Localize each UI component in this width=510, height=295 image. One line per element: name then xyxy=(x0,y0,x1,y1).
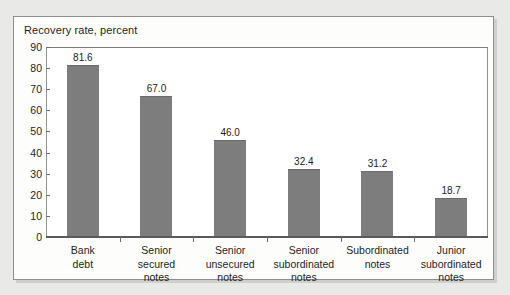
y-axis-tick-label: 0 xyxy=(18,231,42,243)
bar-column: 31.2 xyxy=(341,47,415,237)
x-axis-tick-mark xyxy=(267,237,268,242)
bar xyxy=(361,171,393,237)
y-axis-tick-mark xyxy=(46,195,50,196)
bar xyxy=(140,96,172,237)
chart-panel: Recovery rate, percent 90807060504030201… xyxy=(13,16,494,280)
x-axis-category-label-line: subordinated xyxy=(401,258,501,272)
y-axis: 9080706050403020100 xyxy=(14,47,42,237)
bar xyxy=(288,169,320,237)
y-axis-tick-mark xyxy=(46,216,50,217)
bar-value-label: 46.0 xyxy=(220,127,239,138)
bar xyxy=(435,198,467,237)
x-axis-tick-mark xyxy=(414,237,415,242)
y-axis-tick-mark xyxy=(46,153,50,154)
y-axis-tick-label: 50 xyxy=(18,125,42,137)
y-axis-tick-label: 20 xyxy=(18,189,42,201)
bar xyxy=(67,65,99,237)
bar-column: 32.4 xyxy=(267,47,341,237)
chart-page: Recovery rate, percent 90807060504030201… xyxy=(0,0,510,295)
y-axis-tick-label: 10 xyxy=(18,210,42,222)
bar-column: 67.0 xyxy=(120,47,194,237)
x-axis-tick-mark xyxy=(341,237,342,242)
bar xyxy=(214,140,246,237)
y-axis-tick-mark xyxy=(46,68,50,69)
y-axis-tick-mark xyxy=(46,131,50,132)
y-axis-tick-label: 70 xyxy=(18,83,42,95)
x-axis-category-label-line: notes xyxy=(254,271,354,285)
bar-value-label: 81.6 xyxy=(73,52,92,63)
y-axis-tick-mark xyxy=(46,110,50,111)
y-axis-tick-mark xyxy=(46,174,50,175)
bar-value-label: 18.7 xyxy=(441,185,460,196)
bar-value-label: 67.0 xyxy=(147,83,166,94)
x-axis-tick-mark xyxy=(120,237,121,242)
y-axis-tick-label: 80 xyxy=(18,62,42,74)
y-axis-tick-mark xyxy=(46,89,50,90)
y-axis-tick-label: 30 xyxy=(18,168,42,180)
bar-column: 18.7 xyxy=(414,47,488,237)
chart-title: Recovery rate, percent xyxy=(24,24,137,36)
bar-column: 46.0 xyxy=(193,47,267,237)
x-axis-tick-mark xyxy=(193,237,194,242)
y-axis-tick-label: 60 xyxy=(18,104,42,116)
x-axis-category-label-line: Junior xyxy=(401,244,501,258)
y-axis-tick-label: 40 xyxy=(18,147,42,159)
bar-value-label: 32.4 xyxy=(294,156,313,167)
x-axis-category-label-line: notes xyxy=(401,271,501,285)
bars-layer: 81.667.046.032.431.218.7 xyxy=(46,47,488,237)
bar-column: 81.6 xyxy=(46,47,120,237)
x-axis-category-label: Juniorsubordinatednotes xyxy=(401,244,501,285)
bar-value-label: 31.2 xyxy=(368,158,387,169)
y-axis-tick-label: 90 xyxy=(18,41,42,53)
y-axis-tick-mark xyxy=(46,47,50,48)
x-axis-labels: BankdebtSeniorsecurednotesSeniorunsecure… xyxy=(46,244,488,295)
